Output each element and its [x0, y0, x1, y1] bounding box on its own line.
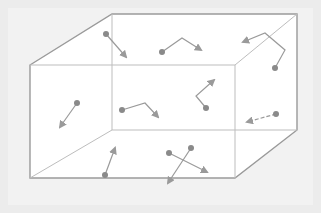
gas-particles-box-diagram: [0, 0, 321, 213]
diagram-canvas: [0, 0, 321, 213]
particle-dot: [272, 65, 278, 71]
particle-dot: [273, 111, 279, 117]
particle-dot: [103, 31, 109, 37]
particle-dot: [119, 107, 125, 113]
particle-dot: [166, 150, 172, 156]
particle-dot: [188, 145, 194, 151]
particle-dot: [203, 105, 209, 111]
particle-dot: [102, 172, 108, 178]
particle-dot: [74, 100, 80, 106]
particle-dot: [159, 49, 165, 55]
